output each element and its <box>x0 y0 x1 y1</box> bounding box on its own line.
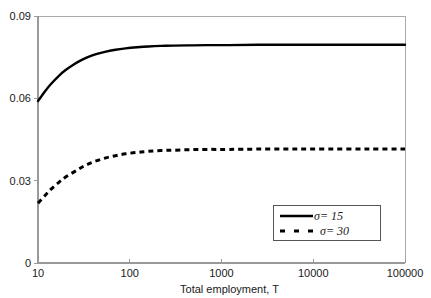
legend-label-0: σ= 15 <box>314 209 343 223</box>
x-axis-title: Total employment, T <box>180 283 279 295</box>
x-tick-label: 10 <box>32 267 44 279</box>
legend: σ= 15σ= 30 <box>273 205 380 240</box>
chart-container: 10100100010000100000 00.030.060.09 Total… <box>0 0 431 298</box>
x-tick-label: 100 <box>121 267 139 279</box>
x-tick-label: 10000 <box>298 267 329 279</box>
line-chart: 10100100010000100000 00.030.060.09 Total… <box>0 0 431 298</box>
series-line-sigma-30 <box>38 149 405 203</box>
y-tick-label: 0.06 <box>10 92 31 104</box>
x-tick-label: 1000 <box>209 267 233 279</box>
x-axis-tick-labels: 10100100010000100000 <box>32 267 423 279</box>
x-tick-label: 100000 <box>387 267 424 279</box>
y-tick-label: 0 <box>25 257 31 269</box>
data-series-group <box>38 45 405 203</box>
series-line-sigma-15 <box>38 45 405 101</box>
legend-label-1: σ= 30 <box>320 224 349 238</box>
y-tick-label: 0.09 <box>10 10 31 22</box>
y-axis-tick-labels: 00.030.060.09 <box>10 10 31 269</box>
y-tick-label: 0.03 <box>10 175 31 187</box>
